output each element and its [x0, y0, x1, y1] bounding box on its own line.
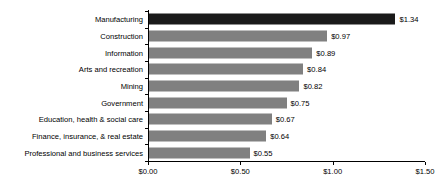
bar-row: Mining$0.82	[148, 78, 425, 95]
bar-row: Finance, insurance, & real estate$0.64	[148, 128, 425, 145]
bar	[148, 130, 266, 141]
bar	[148, 80, 299, 91]
bar-value-label: $0.82	[303, 81, 322, 90]
bar-value-label: $0.64	[270, 131, 289, 140]
category-label: Information	[105, 48, 143, 57]
category-label: Finance, insurance, & real estate	[32, 131, 143, 140]
bar-row: Construction$0.97	[148, 28, 425, 45]
y-axis-tick	[145, 94, 148, 95]
bar-value-label: $1.34	[399, 15, 418, 24]
bar-row: Education, health & social care$0.67	[148, 111, 425, 128]
category-label: Mining	[121, 81, 143, 90]
bar-value-label: $0.55	[254, 148, 273, 157]
y-axis-tick	[145, 11, 148, 12]
bar-chart: Manufacturing$1.34Construction$0.97Infor…	[0, 0, 443, 194]
bar	[148, 114, 272, 125]
plot-area: Manufacturing$1.34Construction$0.97Infor…	[148, 11, 425, 161]
category-label: Education, health & social care	[39, 115, 143, 124]
x-axis-tick-label: $0.50	[231, 167, 250, 176]
bar	[148, 47, 312, 58]
bar-value-label: $0.84	[307, 65, 326, 74]
x-axis-tick-label: $0.00	[138, 167, 157, 176]
bar-value-label: $0.89	[316, 48, 335, 57]
y-axis-tick	[145, 78, 148, 79]
y-axis-tick	[145, 144, 148, 145]
x-axis-tick	[333, 162, 334, 165]
bar-value-label: $0.75	[291, 98, 310, 107]
bar	[148, 64, 303, 75]
y-axis-tick	[145, 44, 148, 45]
x-axis-tick-label: $1.50	[415, 167, 434, 176]
category-label: Construction	[100, 31, 143, 40]
bar-row: Arts and recreation$0.84	[148, 61, 425, 78]
bar-row: Information$0.89	[148, 44, 425, 61]
category-label: Professional and business services	[24, 148, 143, 157]
bar	[148, 14, 395, 25]
x-axis-tick-label: $1.00	[323, 167, 342, 176]
x-axis-line	[148, 161, 425, 162]
bar-row: Professional and business services$0.55	[148, 144, 425, 161]
bar-value-label: $0.97	[331, 31, 350, 40]
bar	[148, 30, 327, 41]
x-axis-tick	[240, 162, 241, 165]
x-axis-tick	[425, 162, 426, 165]
y-axis-tick	[145, 128, 148, 129]
y-axis-line	[148, 10, 149, 162]
category-label: Manufacturing	[95, 15, 143, 24]
y-axis-tick	[145, 61, 148, 62]
bar-value-label: $0.67	[276, 115, 295, 124]
category-label: Government	[101, 98, 143, 107]
y-axis-tick	[145, 111, 148, 112]
bar	[148, 147, 250, 158]
category-label: Arts and recreation	[79, 65, 143, 74]
y-axis-tick	[145, 28, 148, 29]
bar-row: Manufacturing$1.34	[148, 11, 425, 28]
bar	[148, 97, 287, 108]
bar-row: Government$0.75	[148, 94, 425, 111]
x-axis-tick	[148, 162, 149, 165]
